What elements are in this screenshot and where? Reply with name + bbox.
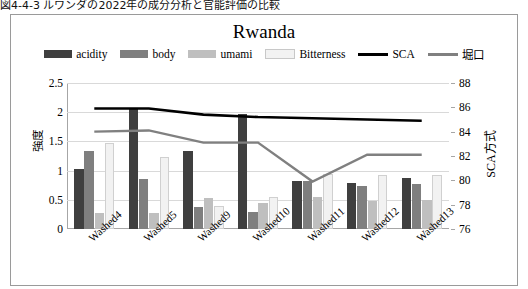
y-tick-right: 82 (459, 150, 471, 162)
line-堀口 (94, 130, 421, 181)
legend-item-body: body (120, 48, 175, 60)
y-tick-right: 88 (459, 77, 471, 89)
figure-caption: 図4-4-3 ルワンダの2022年の成分分析と官能評価の比較 (0, 0, 528, 10)
y-tick-right: 76 (459, 223, 471, 235)
legend-label: 堀口 (462, 46, 484, 62)
y-tick-mark-right (451, 156, 455, 157)
y-tick-mark-right (451, 107, 455, 108)
legend-label: SCA (392, 48, 414, 60)
y-tick-mark-right (451, 205, 455, 206)
y-tick-mark-right (451, 83, 455, 84)
legend-item-sca: SCA (358, 48, 414, 60)
legend-item-bitterness: Bitterness (265, 48, 345, 60)
line-SCA (94, 109, 421, 121)
y-tick-right: 84 (459, 126, 471, 138)
legend-label: Bitterness (299, 48, 345, 60)
y-tick-right: 78 (459, 199, 471, 211)
y-tick-left: 1 (29, 165, 63, 177)
y-tick-right: 80 (459, 174, 471, 186)
legend-line-swatch (428, 53, 458, 56)
y-tick-mark-right (451, 132, 455, 133)
legend-label: body (152, 48, 175, 60)
y-axis-right-ticks: 76788082848688 (451, 83, 481, 229)
y-tick-left: 2 (29, 106, 63, 118)
y-axis-right-label: SCA方式 (481, 130, 499, 177)
legend-item-acidity: acidity (44, 48, 107, 60)
legend-color-swatch (265, 49, 295, 59)
y-tick-left: 0.5 (29, 194, 63, 206)
y-tick-left: 0 (29, 223, 63, 235)
legend-line-swatch (358, 53, 388, 56)
y-axis-left-ticks: 00.511.522.5 (25, 83, 63, 229)
chart-frame: Rwanda aciditybodyumamiBitternessSCA堀口 強… (10, 14, 518, 286)
y-tick-left: 1.5 (29, 135, 63, 147)
legend-color-swatch (120, 50, 148, 58)
chart-title: Rwanda (11, 21, 517, 43)
chart-legend: aciditybodyumamiBitternessSCA堀口 (11, 46, 517, 62)
y-tick-left: 2.5 (29, 77, 63, 89)
legend-label: umami (220, 48, 252, 60)
y-tick-mark-right (451, 180, 455, 181)
legend-color-swatch (188, 50, 216, 58)
legend-item-堀口: 堀口 (428, 46, 484, 62)
legend-item-umami: umami (188, 48, 252, 60)
y-tick-right: 86 (459, 101, 471, 113)
legend-color-swatch (44, 50, 72, 58)
y-tick-mark-right (451, 229, 455, 230)
legend-label: acidity (76, 48, 107, 60)
